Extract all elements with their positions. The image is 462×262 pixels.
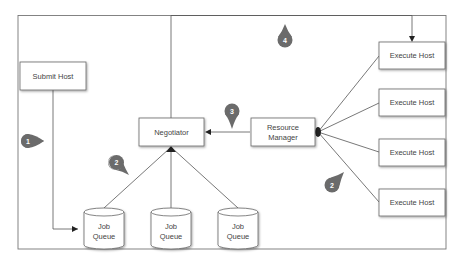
step-marker-2a: 2: [108, 155, 129, 175]
connector-exec2-to-rm: [318, 103, 379, 132]
teardrop-icon: [225, 114, 239, 129]
teardrop-icon: [278, 24, 292, 37]
submit-host-label: Submit Host: [33, 72, 75, 81]
arrowhead-execute-host: [409, 36, 415, 42]
step-marker-1-label: 1: [26, 138, 30, 145]
arrowhead-negotiator-bottom: [166, 146, 176, 152]
execute-host-label-1: Execute Host: [390, 51, 436, 60]
arrowhead-rm-to-negotiator: [205, 129, 211, 135]
job-queue-label-2-line2: Queue: [160, 232, 183, 241]
job-queue-label-2-line1: Job: [165, 222, 177, 231]
job-queue-label-3-line2: Queue: [227, 232, 250, 241]
resource-manager-label-line1: Resource: [267, 123, 299, 132]
connector-exec4-to-rm: [318, 132, 379, 202]
step-marker-3: 3: [225, 104, 240, 130]
job-queue-label-1-line2: Queue: [93, 232, 116, 241]
step-marker-1: 1: [21, 134, 44, 148]
step-marker-4: 4: [278, 24, 293, 48]
execute-host-label-3: Execute Host: [390, 148, 436, 157]
connector-queue3-to-negotiator: [172, 148, 238, 208]
arrowhead-queue1: [72, 226, 78, 232]
step-marker-2b-label: 2: [330, 182, 334, 189]
resource-manager-label-line2: Manager: [268, 133, 298, 142]
step-marker-4-label: 4: [283, 37, 287, 44]
arrowheads: [72, 36, 415, 232]
step-marker-2a-label: 2: [115, 159, 119, 166]
arrowhead-rm-right: [315, 127, 321, 137]
connector-exec1-to-rm: [318, 56, 379, 132]
step-marker-3-label: 3: [230, 108, 234, 115]
connector-negotiator-to-execute: [171, 16, 412, 119]
architecture-diagram: Submit Host Negotiator Resource Manager …: [0, 0, 462, 262]
connector-submit-to-queue: [53, 90, 78, 229]
negotiator-label: Negotiator: [154, 128, 189, 137]
job-queue-label-1-line1: Job: [98, 222, 110, 231]
execute-host-label-2: Execute Host: [390, 98, 436, 107]
job-queue-label-3-line1: Job: [232, 222, 244, 231]
execute-host-label-4: Execute Host: [390, 198, 436, 207]
step-marker-2b: 2: [325, 172, 345, 193]
